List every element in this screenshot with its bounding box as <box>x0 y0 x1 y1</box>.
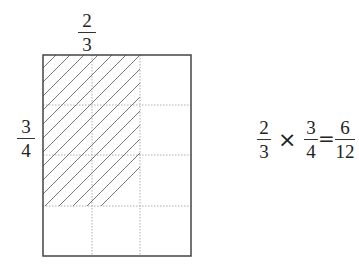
numerator: 6 <box>340 118 350 137</box>
shaded-region <box>43 55 252 264</box>
denominator: 4 <box>306 142 316 161</box>
denominator: 3 <box>259 142 269 161</box>
grid-border <box>43 55 191 256</box>
equation-result-fraction: 6 12 <box>334 118 356 161</box>
fraction-bar <box>335 139 355 140</box>
denominator: 12 <box>336 142 355 161</box>
fraction-bar <box>304 139 318 140</box>
multiply-sign: × <box>278 129 296 151</box>
grid-dividers <box>43 55 191 256</box>
numerator: 3 <box>306 118 316 137</box>
numerator: 2 <box>259 118 269 137</box>
equals-sign: = <box>318 127 335 149</box>
equation-right-fraction: 3 4 <box>303 118 319 161</box>
fraction-bar <box>257 139 271 140</box>
equation-left-fraction: 2 3 <box>256 118 272 161</box>
